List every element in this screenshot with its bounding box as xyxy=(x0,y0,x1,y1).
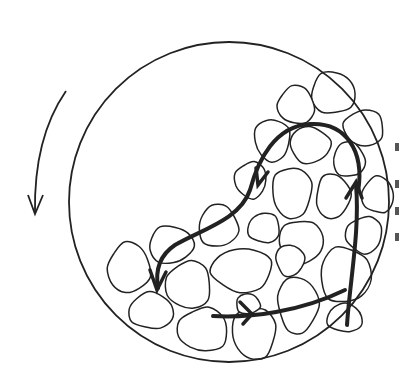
diagram-canvas xyxy=(0,0,399,387)
particle xyxy=(248,213,279,243)
particle xyxy=(345,216,381,254)
particle xyxy=(129,292,174,329)
rotation-arrow-icon xyxy=(28,91,66,214)
ball-mill-diagram xyxy=(0,0,399,387)
particle xyxy=(277,85,315,123)
particle xyxy=(290,126,331,163)
particle xyxy=(210,249,272,293)
particle xyxy=(177,307,226,351)
particle xyxy=(312,72,356,113)
particle xyxy=(276,245,305,276)
particle xyxy=(273,168,312,218)
particle xyxy=(107,242,151,293)
particle xyxy=(165,260,209,308)
edge-marks xyxy=(395,143,399,241)
particle xyxy=(327,303,362,332)
